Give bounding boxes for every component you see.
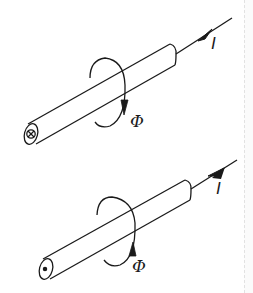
bottom-dot-icon [43, 267, 46, 270]
top-conductor-group [22, 18, 232, 146]
top-current-label: I [211, 35, 216, 52]
bottom-current-label: I [216, 180, 221, 197]
top-cylinder-lower-edge [36, 65, 175, 144]
top-cylinder-upper-edge [28, 44, 170, 124]
bottom-flux-arrow-icon [129, 242, 136, 256]
page-edge-divider [244, 0, 253, 293]
bottom-cylinder-right-cap [185, 180, 191, 200]
bottom-cylinder-upper-edge [43, 180, 185, 259]
bottom-cylinder-lower-edge [50, 200, 190, 279]
top-flux-loop [90, 58, 125, 127]
bottom-flux-label: Φ [132, 258, 146, 275]
diagram-canvas: I Φ I Φ [0, 0, 253, 293]
top-cylinder-right-cap [170, 44, 176, 65]
top-current-arrow-icon [198, 29, 212, 41]
top-flux-label: Φ [130, 113, 144, 130]
